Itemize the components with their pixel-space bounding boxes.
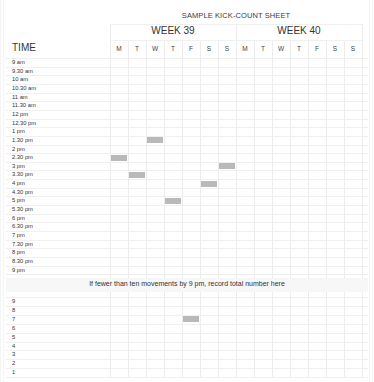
count-row-label: 6 [12, 324, 15, 333]
grid-line-vertical [326, 40, 327, 378]
grid-line-vertical [308, 40, 309, 378]
day-header: T [164, 45, 182, 52]
grid-line-vertical [290, 40, 291, 378]
grid-line-vertical [164, 40, 165, 378]
grid-line-horizontal [6, 240, 368, 241]
time-row-label: 4.30 pm [12, 188, 33, 197]
count-mark[interactable] [183, 316, 199, 322]
grid-line-horizontal [110, 40, 362, 41]
grid-line-horizontal [6, 179, 368, 180]
time-row-label: 1 pm [12, 127, 25, 136]
grid-line-horizontal [6, 359, 368, 360]
time-row-label: 6.30 pm [12, 222, 33, 231]
time-row-label: 1.30 pm [12, 136, 33, 145]
time-row-label: 10.30 am [12, 84, 36, 93]
movement-mark[interactable] [129, 172, 145, 178]
day-header: S [200, 45, 218, 52]
time-row-label: 11.30 am [12, 101, 36, 110]
time-row-label: 8.30 pm [12, 257, 33, 266]
sheet-title: SAMPLE KICK-COUNT SHEET [110, 11, 362, 20]
grid-line-horizontal [6, 196, 368, 197]
grid-line-horizontal [6, 145, 368, 146]
grid-line-vertical [200, 40, 201, 378]
grid-line-horizontal [6, 162, 368, 163]
grid-line-horizontal [6, 205, 368, 206]
time-row-label: 11 am [12, 93, 28, 102]
grid-line-horizontal [6, 101, 368, 102]
day-header: M [236, 45, 254, 52]
week-40-header: WEEK 40 [236, 25, 362, 36]
time-row-label: 7 pm [12, 231, 25, 240]
day-header: T [254, 45, 272, 52]
grid-line-horizontal [6, 231, 368, 232]
count-row-label: 1 [12, 368, 15, 377]
movement-mark[interactable] [147, 137, 163, 143]
count-row-label: 2 [12, 359, 15, 368]
time-row-label: 2.30 pm [12, 153, 33, 162]
day-header: F [308, 45, 326, 52]
grid-line-vertical [254, 40, 255, 378]
grid-line-horizontal [6, 84, 368, 85]
grid-line-horizontal [6, 58, 368, 59]
grid-line-horizontal [6, 377, 368, 378]
count-row-label: 4 [12, 342, 15, 351]
grid-line-horizontal [6, 75, 368, 76]
movement-mark[interactable] [165, 198, 181, 204]
day-header: T [128, 45, 146, 52]
time-row-label: 6 pm [12, 214, 25, 223]
grid-line-horizontal [6, 188, 368, 189]
grid-line-horizontal [6, 342, 368, 343]
time-column-header: TIME [12, 42, 36, 53]
grid-line-vertical [218, 40, 219, 378]
count-row-label: 5 [12, 333, 15, 342]
record-total-text: If fewer than ten movements by 9 pm, rec… [6, 280, 368, 287]
grid-line-horizontal [110, 24, 362, 25]
grid-line-vertical [362, 24, 363, 378]
grid-line-vertical [344, 40, 345, 378]
count-row-label: 3 [12, 350, 15, 359]
grid-line-horizontal [6, 368, 368, 369]
count-row-label: 8 [12, 306, 15, 315]
count-row-label: 7 [12, 315, 15, 324]
grid-line-horizontal [6, 170, 368, 171]
grid-line-vertical [236, 24, 237, 378]
time-row-label: 12 pm [12, 110, 28, 119]
time-row-label: 2 pm [12, 145, 25, 154]
day-header: S [344, 45, 362, 52]
grid-line-horizontal [6, 110, 368, 111]
day-header: W [146, 45, 164, 52]
time-row-label: 3 pm [12, 162, 25, 171]
week-39-header: WEEK 39 [110, 25, 236, 36]
movement-mark[interactable] [111, 155, 127, 161]
grid-line-vertical [110, 24, 111, 378]
grid-line-horizontal [6, 257, 368, 258]
time-row-label: 9 am [12, 58, 25, 67]
grid-line-horizontal [6, 67, 368, 68]
grid-line-horizontal [6, 248, 368, 249]
grid-line-horizontal [6, 127, 368, 128]
day-header: S [218, 45, 236, 52]
grid-line-horizontal [6, 333, 368, 334]
grid-line-horizontal [6, 324, 368, 325]
day-header: S [326, 45, 344, 52]
grid-line-horizontal [6, 222, 368, 223]
grid-line-horizontal [6, 153, 368, 154]
day-header: T [290, 45, 308, 52]
grid-line-horizontal [6, 350, 368, 351]
grid-line-vertical [146, 40, 147, 378]
time-row-label: 3.30 pm [12, 170, 33, 179]
time-row-label: 5.30 pm [12, 205, 33, 214]
movement-mark[interactable] [219, 163, 235, 169]
time-row-label: 4 pm [12, 179, 25, 188]
grid-line-horizontal [6, 306, 368, 307]
grid-line-vertical [128, 40, 129, 378]
day-header: F [182, 45, 200, 52]
grid-line-horizontal [6, 214, 368, 215]
grid-line-horizontal [6, 136, 368, 137]
grid-line-horizontal [6, 297, 368, 298]
movement-mark[interactable] [201, 181, 217, 187]
day-header: M [110, 45, 128, 52]
time-row-label: 10 am [12, 75, 28, 84]
grid-line-horizontal [6, 274, 368, 275]
time-row-label: 8 pm [12, 248, 25, 257]
